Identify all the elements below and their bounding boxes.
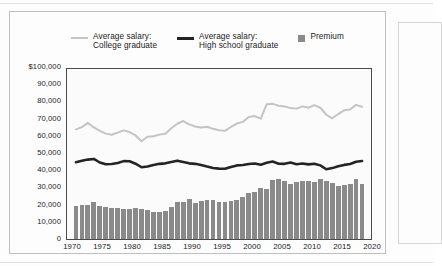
bar-premium-1991 xyxy=(199,201,204,239)
x-tick-2015: 2015 xyxy=(333,242,351,251)
bar-premium-1975 xyxy=(103,207,108,239)
chart-legend: Average salary: College graduate Average… xyxy=(19,32,396,60)
y-tick-90000: 90,000 xyxy=(37,79,61,88)
bar-premium-2016 xyxy=(348,184,353,239)
bar-premium-2004 xyxy=(276,179,281,239)
x-tick-2005: 2005 xyxy=(273,242,291,251)
y-tick-80000: 80,000 xyxy=(37,96,61,105)
page-rule-top xyxy=(0,3,433,4)
x-tick-1970: 1970 xyxy=(63,242,81,251)
page-side-panel xyxy=(398,22,442,244)
legend-item-premium: Premium xyxy=(298,32,343,42)
bar-premium-1971 xyxy=(80,205,85,239)
line-average-salary-high-school-graduate xyxy=(76,159,362,169)
x-tick-1985: 1985 xyxy=(153,242,171,251)
y-tick-10000: 10,000 xyxy=(37,217,61,226)
bar-premium-1992 xyxy=(205,200,210,239)
bar-premium-2002 xyxy=(264,189,269,239)
plot-frame xyxy=(66,68,372,240)
bar-premium-1973 xyxy=(91,202,96,239)
bar-premium-1970 xyxy=(74,206,79,239)
bar-premium-1974 xyxy=(97,206,102,239)
figure-container: Average salary: College graduate Average… xyxy=(9,11,386,254)
x-tick-1990: 1990 xyxy=(183,242,201,251)
bar-premium-2010 xyxy=(312,182,317,239)
bar-premium-1981 xyxy=(139,209,144,239)
bar-premium-2006 xyxy=(288,184,293,239)
bar-premium-2014 xyxy=(336,186,341,239)
bar-premium-2009 xyxy=(306,181,311,239)
bar-premium-1998 xyxy=(240,197,245,239)
x-tick-2010: 2010 xyxy=(303,242,321,251)
bar-premium-1972 xyxy=(85,205,90,239)
y-tick-40000: 40,000 xyxy=(37,165,61,174)
y-tick-20000: 20,000 xyxy=(37,200,61,209)
line-average-salary-college-graduate xyxy=(76,104,362,141)
bar-premium-1984 xyxy=(157,212,162,239)
y-axis-labels: $100,00090,00080,00070,00060,00050,00040… xyxy=(10,62,64,246)
bar-premium-1980 xyxy=(133,208,138,239)
legend-item-high-school-graduate: Average salary: High school graduate xyxy=(177,32,278,51)
bar-premium-1985 xyxy=(163,211,168,239)
bar-premium-2003 xyxy=(270,180,275,240)
bar-premium-2000 xyxy=(252,192,257,239)
y-tick-60000: 60,000 xyxy=(37,131,61,140)
bar-premium-1979 xyxy=(127,209,132,239)
bar-premium-1997 xyxy=(234,200,239,239)
bar-premium-1988 xyxy=(181,202,186,239)
bar-premium-1986 xyxy=(169,207,174,239)
bar-premium-2018 xyxy=(360,184,365,239)
bar-series-premium xyxy=(74,179,365,239)
bar-premium-2008 xyxy=(300,181,305,239)
plot-area xyxy=(66,68,372,240)
y-tick-100000: $100,000 xyxy=(29,62,61,71)
bar-premium-1990 xyxy=(193,203,198,239)
bar-premium-1999 xyxy=(246,193,251,239)
bar-premium-2015 xyxy=(342,185,347,239)
legend-label-premium: Premium xyxy=(310,32,343,41)
x-tick-2020: 2020 xyxy=(363,242,381,251)
bar-premium-1982 xyxy=(145,210,150,239)
chart-canvas xyxy=(67,69,371,239)
x-tick-1995: 1995 xyxy=(213,242,231,251)
bar-premium-1987 xyxy=(175,202,180,239)
y-tick-30000: 30,000 xyxy=(37,182,61,191)
page-rule-bottom xyxy=(0,262,433,263)
legend-item-college-graduate: Average salary: College graduate xyxy=(71,32,157,51)
legend-line-high-school-icon xyxy=(177,37,194,40)
y-tick-70000: 70,000 xyxy=(37,114,61,123)
bar-premium-1978 xyxy=(121,209,126,239)
x-tick-1980: 1980 xyxy=(123,242,141,251)
bar-premium-1976 xyxy=(109,208,114,239)
legend-label-college: Average salary: College graduate xyxy=(93,32,157,51)
bar-premium-1994 xyxy=(217,202,222,239)
y-tick-0: 0 xyxy=(57,234,61,243)
line-series-group xyxy=(76,104,362,169)
bar-premium-1989 xyxy=(187,199,192,239)
bar-premium-1977 xyxy=(115,208,120,239)
legend-swatch-premium-icon xyxy=(298,35,305,42)
bar-premium-2005 xyxy=(282,181,287,239)
bar-premium-2017 xyxy=(354,179,359,239)
x-tick-1975: 1975 xyxy=(93,242,111,251)
bar-premium-2007 xyxy=(294,182,299,239)
bar-premium-2013 xyxy=(330,183,335,239)
bar-premium-1983 xyxy=(151,212,156,239)
bar-premium-2011 xyxy=(318,179,323,239)
bar-premium-1995 xyxy=(223,202,228,239)
x-tick-2000: 2000 xyxy=(243,242,261,251)
y-tick-50000: 50,000 xyxy=(37,148,61,157)
legend-label-high-school: Average salary: High school graduate xyxy=(199,32,278,51)
legend-line-college-icon xyxy=(71,37,88,39)
bar-premium-1996 xyxy=(229,201,234,239)
x-axis-labels: 1970197519801985199019952000200520102015… xyxy=(66,242,386,256)
bar-premium-2001 xyxy=(258,188,263,239)
bar-premium-1993 xyxy=(211,200,216,239)
bar-premium-2012 xyxy=(324,181,329,239)
